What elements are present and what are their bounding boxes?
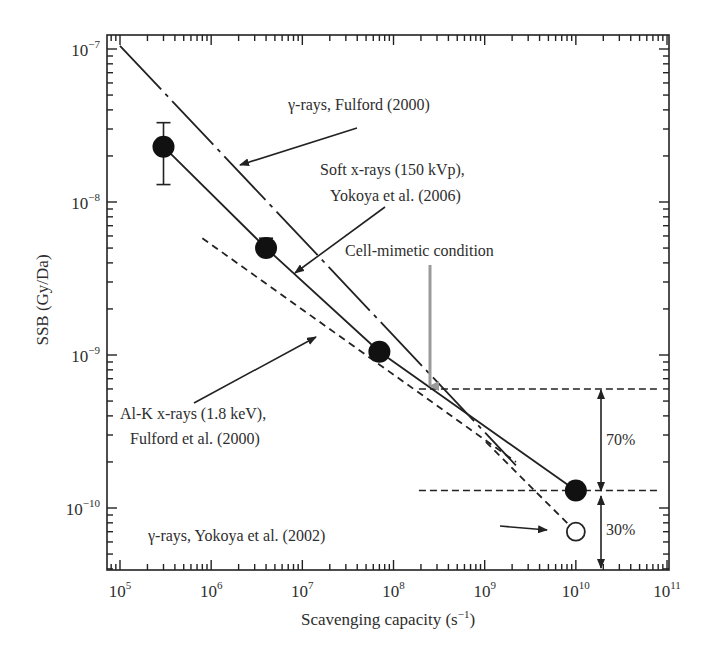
arrow-gamma-fulford	[240, 128, 357, 165]
data-point-filled	[152, 136, 174, 158]
x-tick-label: 108	[382, 579, 405, 601]
y-tick-label: 10−9	[71, 344, 100, 366]
x-tick-label: 107	[291, 579, 314, 601]
data-point-filled	[255, 237, 277, 259]
arrow-soft-xrays	[295, 207, 385, 273]
arrow-gamma-yokoya	[500, 526, 547, 530]
data-point-filled	[565, 480, 587, 502]
annotation-alk-line2: Fulford et al. (2000)	[130, 430, 260, 448]
annotation-soft-xrays-line2: Yokoya et al. (2006)	[330, 187, 461, 205]
ssb-vs-scavenging-chart: 10510610710810910101011 10−710−810−910−1…	[0, 0, 706, 662]
annotation-cell-mimetic: Cell-mimetic condition	[345, 242, 494, 259]
annotation-alk-line1: Al-K x-rays (1.8 keV),	[120, 405, 266, 423]
x-axis-tick-labels: 10510610710810910101011	[109, 579, 681, 601]
y-axis-label: SSB (Gy/Da)	[33, 254, 52, 345]
y-axis-tick-labels: 10−710−810−910−10	[66, 38, 101, 519]
label-70-percent: 70%	[606, 431, 635, 448]
x-tick-label: 105	[109, 579, 132, 601]
data-point-open	[567, 523, 585, 541]
annotation-gamma-fulford: γ-rays, Fulford (2000)	[287, 96, 430, 114]
x-tick-label: 1010	[562, 579, 591, 601]
annotation-soft-xrays-line1: Soft x-rays (150 kVp),	[320, 161, 465, 179]
series-line-alk	[202, 238, 516, 462]
annotation-gamma-yokoya: γ-rays, Yokoya et al. (2002)	[147, 527, 325, 545]
x-tick-label: 1011	[653, 579, 681, 601]
x-tick-label: 106	[200, 579, 223, 601]
data-point-filled	[368, 341, 390, 363]
arrow-alk	[194, 337, 316, 403]
series-lines	[120, 46, 580, 536]
label-30-percent: 30%	[606, 521, 635, 538]
y-tick-label: 10−8	[71, 191, 100, 213]
y-tick-label: 10−7	[71, 38, 100, 60]
y-tick-label: 10−10	[66, 497, 101, 519]
x-axis-label: Scavenging capacity (s−1)	[301, 608, 475, 629]
x-tick-label: 109	[473, 579, 496, 601]
